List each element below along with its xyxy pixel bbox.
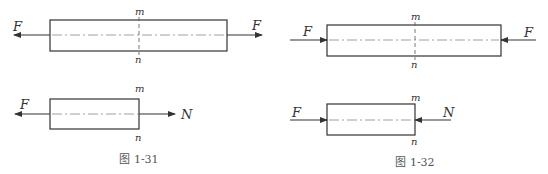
right-force-label: F <box>251 18 262 33</box>
left-force-label: F <box>291 105 302 120</box>
bar-body <box>327 25 501 56</box>
left-force-label: F <box>12 19 23 34</box>
figure-1-31: F F m n F N m n 图 1-31 <box>12 6 262 166</box>
right-force-label: F <box>523 25 534 40</box>
fig31-free-body: F N m n <box>15 83 193 143</box>
section-m-label: m <box>411 11 420 22</box>
diagram-canvas: F F m n F N m n 图 1-31 F F m <box>0 0 548 174</box>
internal-force-label: N <box>180 107 193 122</box>
figure-1-32: F F m n F N m n 图 1-32 <box>290 11 536 169</box>
bar-body <box>50 20 227 51</box>
figure-caption: 图 1-32 <box>395 156 434 169</box>
fig31-full-bar: F F m n <box>12 6 262 65</box>
figure-caption: 图 1-31 <box>119 153 158 166</box>
fig32-full-bar: F F m n <box>290 11 536 70</box>
section-n-label: n <box>411 59 417 70</box>
left-force-label: F <box>302 24 313 39</box>
section-n-label: n <box>411 136 417 147</box>
left-force-label: F <box>19 97 30 112</box>
bar-segment <box>327 104 415 135</box>
internal-force-label: N <box>442 105 455 120</box>
section-m-label: m <box>135 83 144 94</box>
fig32-free-body: F N m n <box>290 92 455 147</box>
section-n-label: n <box>135 132 141 143</box>
section-m-label: m <box>135 6 144 17</box>
section-m-label: m <box>411 92 420 103</box>
section-n-label: n <box>135 54 141 65</box>
